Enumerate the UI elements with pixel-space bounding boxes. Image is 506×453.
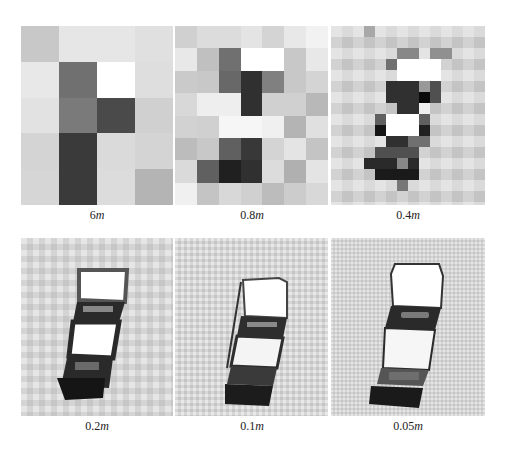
pixel-cell (284, 138, 306, 160)
pixel-grid-0.8m (175, 26, 328, 205)
pixel-cell (219, 93, 241, 115)
pixel-grid-6m (21, 26, 173, 205)
caption-value: 0.05 (393, 419, 414, 433)
caption-unit: m (255, 208, 264, 222)
pixel-cell (306, 138, 328, 160)
pixel-cell (219, 48, 241, 70)
panel-0.8m (175, 26, 328, 205)
car-image-0.05m (331, 238, 485, 416)
panel-0.4m (331, 26, 485, 205)
pixel-cell (59, 169, 97, 205)
pixel-cell (306, 93, 328, 115)
pixel-cell (262, 71, 284, 93)
panel-0.2m (21, 238, 173, 416)
pixel-cell (175, 71, 197, 93)
pixel-cell (21, 26, 59, 62)
pixel-cell (97, 26, 135, 62)
pixel-cell (306, 48, 328, 70)
pixel-cell (284, 183, 306, 205)
caption-value: 0.1 (240, 419, 255, 433)
pixel-cell (219, 71, 241, 93)
caption-0.05m: 0.05m (331, 419, 485, 434)
pixel-cell (21, 62, 59, 98)
pixel-cell (97, 133, 135, 169)
pixel-cell (59, 62, 97, 98)
pixel-cell (135, 62, 173, 98)
pixel-cell (262, 26, 284, 48)
pixel-cell (306, 183, 328, 205)
pixel-cell (197, 48, 219, 70)
pixel-cell (97, 98, 135, 134)
caption-unit: m (411, 208, 420, 222)
pixel-cell (241, 160, 263, 182)
pixel-cell (284, 48, 306, 70)
panel-0.1m (175, 238, 328, 416)
caption-value: 0.4 (396, 208, 411, 222)
pixel-cell (284, 93, 306, 115)
car-image-0.4m (331, 26, 485, 205)
pixel-cell (262, 116, 284, 138)
pixel-cell (219, 160, 241, 182)
pixel-cell (175, 116, 197, 138)
pixel-cell (59, 133, 97, 169)
pixel-cell (262, 138, 284, 160)
pixel-cell (219, 26, 241, 48)
pixel-cell (175, 138, 197, 160)
caption-unit: m (255, 419, 264, 433)
pixel-cell (219, 116, 241, 138)
pixel-cell (284, 26, 306, 48)
pixel-cell (306, 26, 328, 48)
pixel-cell (241, 26, 263, 48)
pixel-cell (175, 160, 197, 182)
pixel-cell (241, 48, 263, 70)
caption-unit: m (96, 208, 105, 222)
caption-0.4m: 0.4m (331, 208, 485, 223)
pixel-cell (175, 48, 197, 70)
caption-value: 0.2 (85, 419, 100, 433)
pixel-cell (284, 71, 306, 93)
caption-unit: m (414, 419, 423, 433)
caption-value: 0.8 (240, 208, 255, 222)
pixel-cell (59, 98, 97, 134)
pixel-cell (306, 71, 328, 93)
pixel-cell (135, 133, 173, 169)
car-image-0.2m (21, 238, 173, 416)
panel-6m (21, 26, 173, 205)
pixel-cell (197, 116, 219, 138)
caption-0.1m: 0.1m (175, 419, 329, 434)
pixel-cell (241, 71, 263, 93)
pixel-cell (241, 116, 263, 138)
pixel-cell (135, 26, 173, 62)
pixel-cell (284, 160, 306, 182)
pixel-cell (175, 26, 197, 48)
caption-6m: 6m (20, 208, 174, 223)
pixel-cell (197, 93, 219, 115)
pixel-cell (21, 169, 59, 205)
pixel-cell (197, 183, 219, 205)
pixel-cell (135, 98, 173, 134)
pixel-cell (197, 71, 219, 93)
pixel-cell (21, 133, 59, 169)
pixel-cell (175, 93, 197, 115)
pixel-cell (59, 26, 97, 62)
pixel-cell (241, 183, 263, 205)
pixel-cell (135, 169, 173, 205)
caption-0.8m: 0.8m (175, 208, 329, 223)
car-image-0.1m (175, 238, 328, 416)
pixel-cell (306, 116, 328, 138)
pixel-cell (97, 169, 135, 205)
pixel-cell (262, 183, 284, 205)
pixel-cell (21, 98, 59, 134)
pixel-cell (197, 138, 219, 160)
caption-unit: m (100, 419, 109, 433)
caption-0.2m: 0.2m (20, 419, 174, 434)
pixel-cell (262, 160, 284, 182)
pixel-cell (262, 48, 284, 70)
pixel-cell (219, 138, 241, 160)
pixel-cell (197, 26, 219, 48)
pixel-cell (262, 93, 284, 115)
pixel-cell (175, 183, 197, 205)
pixel-cell (241, 138, 263, 160)
pixel-cell (284, 116, 306, 138)
pixel-cell (197, 160, 219, 182)
